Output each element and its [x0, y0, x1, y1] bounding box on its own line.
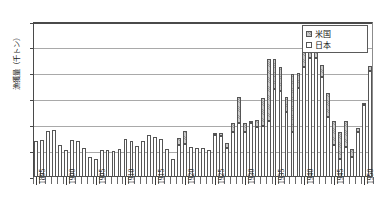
x-tick-mark [331, 177, 332, 184]
bar-segment-jp [297, 88, 301, 177]
bar-segment-us [267, 59, 271, 121]
legend-label-us: 米国 [315, 28, 331, 39]
bar-1909 [118, 22, 122, 177]
x-tick-mark [361, 177, 362, 184]
bar-segment-jp [135, 146, 139, 177]
x-tick-mark [200, 177, 201, 184]
bar-1915 [153, 22, 157, 177]
legend-item-jp: 日本 [306, 39, 364, 50]
bar-1927 [225, 22, 229, 177]
bar-segment-jp [279, 91, 283, 177]
x-tick-label: 1925 [218, 169, 226, 184]
bar-1900 [64, 22, 68, 177]
x-tick-mark [319, 177, 320, 184]
legend-swatch-jp-icon [306, 42, 312, 48]
x-tick-mark [51, 177, 52, 184]
x-tick-mark [146, 177, 147, 184]
x-tick-mark [111, 177, 112, 184]
bar-1918 [171, 22, 175, 177]
x-tick-mark [176, 177, 177, 184]
x-tick-label: 1935 [278, 169, 286, 184]
bar-1895 [34, 22, 38, 177]
bar-1904 [88, 22, 92, 177]
bar-1929 [237, 22, 241, 177]
bar-segment-us [261, 98, 265, 127]
bar-1914 [147, 22, 151, 177]
x-tick-label: 1945 [337, 169, 345, 184]
bar-segment-us [249, 121, 253, 123]
bar-segment-jp [368, 71, 372, 177]
bar-segment-us [291, 74, 295, 133]
bar-1928 [231, 22, 235, 177]
x-tick-mark [170, 177, 171, 184]
bar-1901 [70, 22, 74, 177]
bar-1902 [76, 22, 80, 177]
bar-1919 [177, 22, 181, 177]
bar-1906 [100, 22, 104, 177]
bar-segment-jp [141, 141, 145, 177]
bar-segment-us [326, 93, 330, 117]
bar-segment-us [362, 103, 366, 105]
bar-segment-jp [320, 77, 324, 177]
x-tick-label: 1930 [248, 169, 256, 184]
x-axis-tick-labels: 1895190019051910191519201925193019351940… [33, 184, 373, 214]
bar-1930 [243, 22, 247, 177]
bar-segment-us [297, 73, 301, 88]
x-tick-label: 1895 [39, 169, 47, 184]
x-tick-mark [242, 177, 243, 184]
bar-segment-jp [171, 159, 175, 177]
x-tick-mark [33, 177, 34, 184]
bar-segment-us [350, 149, 354, 158]
x-tick-mark [301, 177, 302, 184]
bar-segment-jp [88, 157, 92, 177]
bar-1938 [291, 22, 295, 177]
bar-segment-jp [308, 58, 312, 177]
bar-segment-jp [147, 135, 151, 177]
bar-1936 [279, 22, 283, 177]
x-tick-mark [260, 177, 261, 184]
bar-segment-jp [326, 117, 330, 177]
x-tick-mark [289, 177, 290, 184]
x-tick-mark [295, 177, 296, 184]
bar-segment-us [320, 65, 324, 77]
x-tick-label: 1950 [367, 169, 375, 184]
bar-1923 [201, 22, 205, 177]
bar-segment-us [344, 121, 348, 147]
bar-segment-us [231, 123, 235, 132]
x-tick-label: 1905 [99, 169, 107, 184]
bar-1935 [273, 22, 277, 177]
bar-1897 [46, 22, 50, 177]
bar-segment-jp [231, 132, 235, 177]
legend: 米国 日本 [302, 25, 368, 53]
x-tick-mark [236, 177, 237, 184]
bar-segment-jp [237, 123, 241, 177]
x-tick-mark [212, 177, 213, 184]
bar-segment-jp [285, 112, 289, 177]
bar-1924 [207, 22, 211, 177]
bar-1917 [165, 22, 169, 177]
bar-segment-us [285, 97, 289, 113]
bar-1939 [297, 22, 301, 177]
bar-1934 [267, 22, 271, 177]
bar-1910 [124, 22, 128, 177]
x-tick-mark [325, 177, 326, 184]
bar-segment-jp [314, 58, 318, 177]
x-tick-mark [230, 177, 231, 184]
bar-segment-jp [58, 145, 62, 177]
fishery-catch-stacked-bar-chart: 漁獲量（千トン） 1895190019051910191519201925193… [0, 0, 384, 215]
bar-1916 [159, 22, 163, 177]
bar-segment-jp [177, 145, 181, 177]
bar-segment-jp [291, 132, 295, 177]
x-tick-mark [182, 177, 183, 184]
bar-1926 [219, 22, 223, 177]
y-axis-title: 漁獲量（千トン） [13, 7, 20, 117]
x-tick-mark [152, 177, 153, 184]
legend-swatch-us-icon [306, 31, 312, 37]
x-tick-mark [57, 177, 58, 184]
x-tick-mark [93, 177, 94, 184]
bar-segment-jp [118, 149, 122, 177]
x-tick-label: 1910 [128, 169, 136, 184]
bar-segment-jp [82, 148, 86, 177]
x-tick-label: 1920 [188, 169, 196, 184]
x-tick-mark [117, 177, 118, 184]
